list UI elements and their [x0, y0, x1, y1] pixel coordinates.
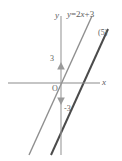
- line-number-tag-label: (5): [98, 29, 107, 37]
- graph-figure: y x y=2x+3 (5) 3 -3 O: [0, 0, 122, 161]
- y-intercept-positive-label: 3: [50, 55, 54, 63]
- x-axis-label: x: [102, 78, 106, 87]
- y-intercept-negative-label: -3: [64, 105, 71, 113]
- origin-label: O: [52, 85, 58, 93]
- equation-constant: 3: [90, 9, 95, 19]
- line-5: [51, 29, 108, 155]
- line-equation-label: y=2x+3: [67, 10, 94, 19]
- y-axis-label: y: [55, 11, 59, 20]
- arrow-up-at-y-3-icon: [57, 62, 65, 70]
